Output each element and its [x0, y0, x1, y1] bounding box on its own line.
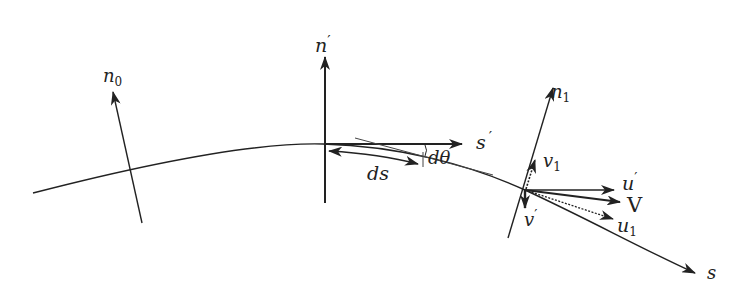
dtheta-arc [425, 145, 427, 156]
n-prime-label: n′ [315, 32, 331, 56]
u-prime-label: u′ [622, 170, 637, 194]
s-prime-label: s′ [476, 128, 493, 153]
n0-label: n0 [103, 65, 122, 89]
v1-label: v1 [543, 150, 561, 174]
u1-arrow [525, 190, 613, 219]
n0-axis-arrow [113, 92, 142, 223]
dtheta-label: dθ [428, 147, 451, 168]
s-label: s [707, 262, 716, 283]
n1-label: n1 [551, 81, 570, 105]
ds-label: ds [367, 162, 389, 184]
streamline-diagram: n0 n′ s′ dθ ds n1 v1 v′ u′ V u1 s [0, 0, 739, 302]
streamline-curve [33, 144, 695, 273]
v-prime-label: v′ [524, 207, 537, 230]
u1-label: u1 [617, 214, 637, 239]
